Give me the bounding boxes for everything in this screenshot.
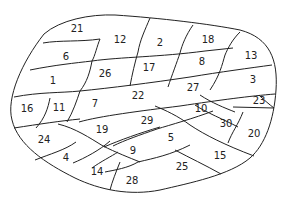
region-label: 9 — [130, 145, 136, 156]
region-map-diagram: 21 12 2 18 13 6 26 17 8 3 1 22 27 23 16 … — [0, 0, 285, 199]
region-label: 20 — [248, 128, 261, 139]
region-label: 22 — [132, 90, 145, 101]
boundary-line — [113, 111, 213, 146]
region-label: 5 — [168, 132, 174, 143]
boundary-line — [104, 127, 160, 147]
region-map-svg: 21 12 2 18 13 6 26 17 8 3 1 22 27 23 16 … — [0, 0, 285, 199]
region-label: 29 — [141, 115, 154, 126]
region-label: 13 — [245, 50, 258, 61]
region-label: 25 — [176, 161, 189, 172]
region-label: 17 — [143, 62, 156, 73]
boundary-line — [67, 39, 100, 122]
boundary-line — [168, 25, 193, 87]
region-label: 15 — [214, 150, 227, 161]
boundary-line — [110, 162, 120, 190]
boundary-line — [14, 119, 80, 128]
region-label: 23 — [253, 95, 266, 106]
region-label: 7 — [92, 98, 98, 109]
region-label: 14 — [91, 166, 104, 177]
region-label: 1 — [50, 75, 56, 86]
region-label: 28 — [126, 175, 139, 186]
region-label: 12 — [114, 34, 127, 45]
boundary-line — [43, 39, 100, 43]
region-label: 10 — [195, 103, 208, 114]
boundary-line — [233, 107, 274, 108]
outer-boundary — [11, 15, 277, 192]
region-label: 11 — [53, 102, 66, 113]
region-label: 8 — [199, 56, 205, 67]
boundary-line — [130, 18, 150, 86]
region-label: 24 — [38, 134, 51, 145]
region-label: 19 — [96, 124, 109, 135]
region-label: 21 — [71, 23, 84, 34]
boundary-line — [210, 32, 240, 90]
region-label: 27 — [187, 82, 200, 93]
region-label: 16 — [21, 103, 34, 114]
region-label: 2 — [157, 37, 163, 48]
region-label: 30 — [220, 118, 233, 129]
region-label: 18 — [202, 34, 215, 45]
region-label: 3 — [250, 74, 256, 85]
region-label: 4 — [63, 152, 69, 163]
boundary-line — [79, 94, 275, 122]
region-label: 26 — [99, 68, 112, 79]
region-label: 6 — [63, 51, 69, 62]
